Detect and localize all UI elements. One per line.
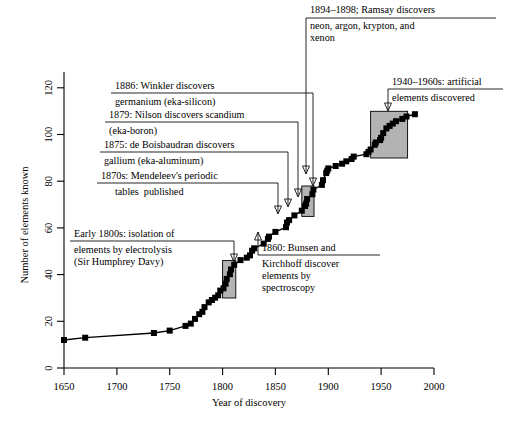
x-tick-label: 1650 [54,381,75,392]
x-tick-1900: 1900 [318,368,339,392]
annotation-nilson: 1879: Nilson discovers scandium (eka-bor… [105,109,302,197]
annotation-bunsen: 1860: Bunsen and Kirchhoff discover elem… [255,232,381,293]
data-point [151,330,157,336]
data-point [251,245,257,251]
annotation-artificial-line-1: 1940–1960s: artificial [392,76,482,87]
data-point [231,262,237,268]
y-tick-label: 0 [43,365,54,370]
data-point [61,337,67,343]
annotation-mendeleev-line-2: tables published [115,186,183,197]
data-point [404,114,410,120]
annotation-davy-line-2: elements by electrolysis [74,244,172,255]
y-tick-60: 60 [43,223,64,234]
x-tick-1850: 1850 [265,368,286,392]
annotation-ramsay-line-2: neon, argon, krypton, and [310,20,415,31]
y-tick-40: 40 [43,269,64,280]
x-tick-1950: 1950 [371,368,392,392]
data-point [266,234,272,240]
data-point [183,323,189,329]
annotation-nilson-line-1: 1879: Nilson discovers scandium [109,109,245,120]
y-tick-label: 60 [43,223,54,234]
y-tick-80: 80 [43,176,64,187]
y-ticks-group: 0 20 40 60 80 100 [43,80,64,371]
y-tick-label: 20 [43,316,54,327]
data-point [343,158,349,164]
y-tick-0: 0 [43,365,64,370]
data-point [304,196,310,202]
annotation-davy-line-3: (Sir Humphrey Davy) [74,256,163,268]
annotation-nilson-line-2: (eka-boron) [109,125,157,137]
annotation-ramsay-line-1: 1894–1898; Ramsay discovers [310,4,435,15]
annotation-boisbaudran-line-2: gallium (eka-aluminum) [104,155,203,167]
x-tick-label: 1950 [371,381,392,392]
y-tick-100: 100 [43,127,64,143]
annotation-mendeleev: 1870s: Mendeleev's periodic tables publi… [97,170,282,214]
data-point [272,229,278,235]
data-point [333,163,339,169]
data-point [167,328,173,334]
annotation-ramsay-line-3: xenon [310,32,335,43]
x-tick-label: 1850 [265,381,286,392]
x-axis-title: Year of discovery [212,397,287,408]
annotation-winkler-line-1: 1886: Winkler discovers [115,80,215,91]
annotation-davy: Early 1800s: isolation of elements by el… [70,228,238,268]
y-tick-label: 40 [43,269,54,280]
data-point [238,257,244,263]
annotation-artificial-line-2: elements discovered [392,92,475,103]
x-tick-1700: 1700 [106,368,127,392]
data-point [325,165,331,171]
y-axis-title: Number of elements known [19,166,30,284]
x-tick-label: 1700 [106,381,127,392]
y-tick-label: 100 [43,127,54,143]
y-tick-120: 120 [43,80,64,96]
elements-discovery-chart: 0 20 40 60 80 100 [0,0,513,423]
annotation-winkler-line-2: germanium (eka-silicon) [115,96,215,108]
annotation-boisbaudran-line-1: 1875: de Boisbaudran discovers [104,139,234,150]
x-tick-label: 1800 [212,381,233,392]
x-tick-1650: 1650 [54,368,75,392]
annotation-mendeleev-line-1: 1870s: Mendeleev's periodic [101,170,218,181]
x-tick-label: 1900 [318,381,339,392]
annotation-davy-line-1: Early 1800s: isolation of [74,228,175,239]
data-point [286,217,292,223]
annotation-bunsen-line-2: Kirchhoff discover [262,258,340,269]
data-point [320,177,326,183]
y-tick-label: 80 [43,176,54,187]
data-point [82,335,88,341]
x-tick-1800: 1800 [212,368,233,392]
data-point [291,212,297,218]
y-tick-label: 120 [43,80,54,96]
x-ticks-group: 1650 1700 1750 1800 1850 1900 [54,368,445,392]
plot-canvas: 0 20 40 60 80 100 [0,0,513,423]
data-point [412,111,418,117]
annotation-bunsen-line-1: 1860: Bunsen and [262,242,336,253]
x-tick-1750: 1750 [159,368,180,392]
annotation-bunsen-line-4: spectroscopy [262,282,316,293]
x-tick-2000: 2000 [424,368,445,392]
annotation-artificial: 1940–1960s: artificial elements discover… [385,76,504,111]
y-tick-20: 20 [43,316,64,327]
x-tick-label: 1750 [159,381,180,392]
annotation-bunsen-line-3: elements by [262,270,312,281]
data-point [351,154,357,160]
data-point [393,118,399,124]
x-tick-label: 2000 [424,381,445,392]
data-point [310,187,316,193]
